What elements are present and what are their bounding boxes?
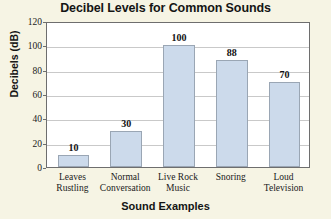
x-tick-label-line: Music [152,183,205,194]
bar-value-label: 30 [121,118,131,129]
x-axis-title: Sound Examples [0,200,331,212]
x-tick-label: Live RockMusic [152,172,205,194]
bar-value-label: 10 [68,142,78,153]
bar-value-label: 88 [227,47,237,58]
bar-value-label: 100 [171,32,186,43]
plot-area: 10301008870 [46,22,310,168]
y-tick-label: 120 [2,17,42,27]
bar[interactable] [269,82,301,167]
bar-value-label: 70 [280,69,290,80]
x-tick-label: LoudTelevision [257,172,310,194]
x-tick-label-line: Normal [99,172,152,183]
chart-title: Decibel Levels for Common Sounds [0,1,331,15]
x-tick-label-line: Conversation [99,183,152,194]
x-tick-label: LeavesRustling [46,172,99,194]
decibel-bar-chart: Decibel Levels for Common Sounds Decibel… [0,0,331,219]
y-tick-label: 100 [2,41,42,51]
bar-slot: 10 [58,23,90,167]
y-tick-label: 40 [2,114,42,124]
y-tick-label: 20 [2,139,42,149]
bar[interactable] [163,45,195,167]
y-tick-mark [43,168,46,169]
x-tick-label-line: Television [257,183,310,194]
y-tick-label: 60 [2,90,42,100]
x-tick-label-line: Rustling [46,183,99,194]
bar[interactable] [216,60,248,167]
bar-slot: 70 [269,23,301,167]
x-tick-label-line: Loud [257,172,310,183]
x-tick-label-line: Snoring [204,172,257,183]
x-tick-label-line: Leaves [46,172,99,183]
bar[interactable] [58,155,90,167]
y-tick-label: 0 [2,163,42,173]
y-tick-label: 80 [2,66,42,76]
bar[interactable] [110,131,142,168]
x-tick-label: NormalConversation [99,172,152,194]
x-tick-label: Snoring [204,172,257,183]
x-tick-label-line: Live Rock [152,172,205,183]
bar-slot: 88 [216,23,248,167]
bar-slot: 30 [110,23,142,167]
bar-slot: 100 [163,23,195,167]
